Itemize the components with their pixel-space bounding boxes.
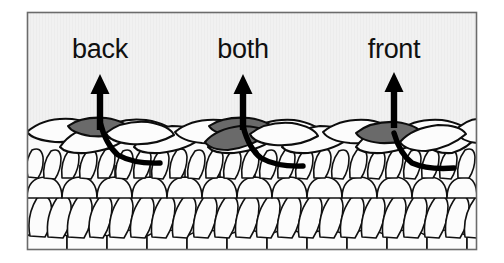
fabric-body [27,140,479,250]
label-both: both [217,34,268,64]
row-fourth [29,195,479,238]
label-back: back [72,34,129,64]
label-front: front [368,34,421,64]
crochet-diagram-figure: back both front [0,0,504,263]
crochet-diagram-canvas: back both front [0,0,504,263]
